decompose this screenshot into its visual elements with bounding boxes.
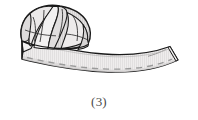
figure-caption: (3): [0, 94, 198, 110]
gathered-rosette: [21, 5, 91, 49]
figure-illustration: (3): [0, 0, 198, 120]
